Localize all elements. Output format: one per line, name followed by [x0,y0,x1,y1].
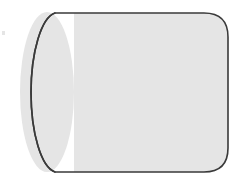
cylinder-body-fill [74,13,228,172]
left-end-cap-fill [20,12,74,172]
cylinder-figure: Cylinder [0,0,246,186]
scan-speck-artifact [2,31,5,35]
figure-canvas: Cylinder [0,0,246,186]
cylinder-solid [20,12,228,172]
